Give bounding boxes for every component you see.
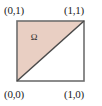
corner-label-bottom-right: (1,0): [64, 89, 84, 100]
corner-label-bottom-left: (0,0): [4, 89, 24, 100]
figure-unit-square-region: (0,1) (1,1) (0,0) (1,0) Ω: [0, 0, 102, 106]
unit-square-plot-area: Ω: [16, 20, 85, 82]
unit-square-svg: [16, 20, 85, 82]
corner-label-top-left: (0,1): [4, 5, 24, 16]
corner-label-top-right: (1,1): [64, 5, 84, 16]
region-omega-label: Ω: [31, 33, 38, 42]
